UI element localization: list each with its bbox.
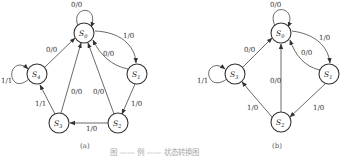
label-a-s1-s0: 0/0 xyxy=(103,50,114,58)
label-b-s0-s1: 1/0 xyxy=(319,34,330,42)
label-a-s0-self: 0/0 xyxy=(71,1,82,9)
label-a-s1-s2: 1/0 xyxy=(131,100,142,108)
label-b-s2-s3: 1/0 xyxy=(247,104,258,112)
state-diagram-figure: S0 S1 S2 S3 S4 0/0 1/0 0/0 1/0 0/0 1/0 0… xyxy=(0,0,342,157)
label-b-s3-self: 1/1 xyxy=(197,77,208,85)
label-b-s1-s2: 1/0 xyxy=(313,104,324,112)
edge-b-s1-s2 xyxy=(290,84,325,117)
diagram-b xyxy=(209,10,339,132)
label-a-s3-s4: 1/1 xyxy=(35,100,46,108)
edge-a-s1-s2 xyxy=(122,84,135,114)
figure-caption: 图 —— 例 —— 状态转换图 xyxy=(110,147,199,157)
edge-b-s3-self xyxy=(209,66,227,83)
label-b-s3-s0: 0/0 xyxy=(244,46,255,54)
label-a-s4-s0: 0/0 xyxy=(46,46,57,54)
label-b-s1-s0: 0/0 xyxy=(301,49,312,57)
label-a-s3-s0: 0/0 xyxy=(71,88,82,96)
label-a-s0-s1: 1/0 xyxy=(123,32,134,40)
label-a-s4-self: 1/1 xyxy=(1,77,12,85)
label-b-s0-self: 0/0 xyxy=(270,1,281,9)
edge-a-s3-s0 xyxy=(61,43,81,113)
caption-b: (b) xyxy=(272,142,282,150)
caption-a: (a) xyxy=(80,142,90,150)
label-b-s2-s0: 0/0 xyxy=(270,77,281,85)
label-a-s2-s3: 1/0 xyxy=(86,125,97,133)
edge-a-s4-self xyxy=(12,65,29,84)
label-a-s2-s0: 0/0 xyxy=(93,88,104,96)
